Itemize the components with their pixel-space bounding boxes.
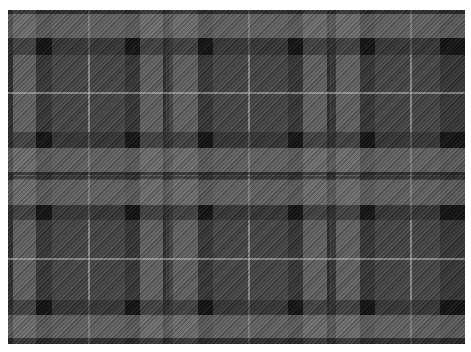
dark-intersection xyxy=(360,300,375,315)
dark-intersection xyxy=(125,300,140,315)
dark-intersection xyxy=(288,132,303,148)
horizontal-stripe xyxy=(8,315,465,338)
dark-intersection xyxy=(125,205,140,220)
dark-intersection xyxy=(288,205,303,220)
dark-intersection xyxy=(36,300,52,315)
horizontal-stripe xyxy=(8,338,465,344)
dark-intersection xyxy=(440,205,465,220)
horizontal-stripe xyxy=(8,38,465,55)
dark-intersection xyxy=(198,300,213,315)
horizontal-stripe xyxy=(8,180,465,205)
dark-intersection xyxy=(288,300,303,315)
dark-intersection xyxy=(440,132,465,148)
dark-intersection xyxy=(125,132,140,148)
dark-intersection xyxy=(440,300,465,315)
dark-intersection xyxy=(360,132,375,148)
horizontal-stripe xyxy=(8,258,465,260)
dark-intersection xyxy=(360,38,375,55)
dark-intersection xyxy=(36,132,52,148)
dark-intersection xyxy=(198,38,213,55)
horizontal-stripe xyxy=(8,14,465,38)
dark-intersection xyxy=(360,205,375,220)
horizontal-stripe xyxy=(8,132,465,148)
dark-intersection xyxy=(288,38,303,55)
horizontal-stripe xyxy=(8,205,465,220)
horizontal-stripe xyxy=(8,176,465,179)
dark-intersection xyxy=(198,205,213,220)
horizontal-stripe xyxy=(8,148,465,172)
dark-intersection xyxy=(36,205,52,220)
tartan-fabric xyxy=(8,10,465,344)
dark-intersection xyxy=(440,38,465,55)
horizontal-stripe xyxy=(8,300,465,315)
horizontal-stripe xyxy=(8,172,465,175)
dark-intersection xyxy=(36,38,52,55)
horizontal-stripe xyxy=(8,92,465,94)
dark-intersection xyxy=(125,38,140,55)
dark-intersection xyxy=(198,132,213,148)
